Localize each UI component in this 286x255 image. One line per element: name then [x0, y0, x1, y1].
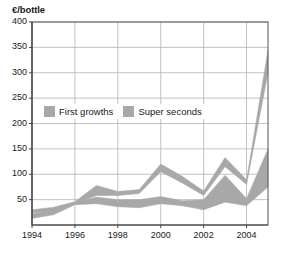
x-tick-label: 1996 [58, 230, 92, 240]
legend-entry: Super seconds [123, 106, 211, 117]
chart-legend: First growthsSuper seconds [42, 104, 216, 119]
y-tick-label: 400 [1, 16, 27, 26]
y-tick-label: 50 [1, 194, 27, 204]
y-tick-label: 150 [1, 143, 27, 153]
legend-swatch-icon [44, 106, 55, 117]
x-tick-label: 2002 [187, 230, 221, 240]
x-tick-label: 1994 [15, 230, 49, 240]
y-tick-label: 200 [1, 118, 27, 128]
y-tick-label: 250 [1, 92, 27, 102]
plot-area [0, 0, 286, 255]
legend-entry: First growths [44, 106, 123, 117]
y-tick-label: 300 [1, 67, 27, 77]
x-tick-label: 1998 [101, 230, 135, 240]
chart-container: €/bottle 40035030025020015010050 1994199… [0, 0, 286, 255]
legend-swatch-icon [123, 106, 134, 117]
legend-label: Super seconds [138, 106, 201, 117]
y-tick-label: 350 [1, 41, 27, 51]
x-tick-label: 2000 [144, 230, 178, 240]
y-tick-label: 100 [1, 168, 27, 178]
x-tick-label: 2004 [230, 230, 264, 240]
legend-label: First growths [59, 106, 113, 117]
